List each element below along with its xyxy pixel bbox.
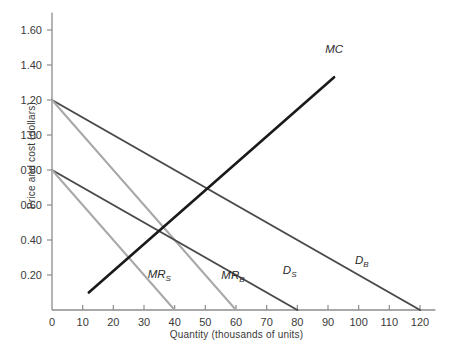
x-tick-label: 120: [411, 316, 429, 328]
x-tick-label: 60: [230, 316, 242, 328]
series-label-mr-s: MRS: [148, 268, 172, 283]
x-tick-label: 80: [291, 316, 303, 328]
y-axis-ticks: 0.200.400.600.801.001.201.401.60: [21, 24, 52, 281]
y-tick-label: 0.40: [21, 234, 42, 246]
series-label-d-s: DS: [283, 264, 297, 279]
x-tick-label: 50: [199, 316, 211, 328]
y-tick-label: 0.60: [21, 199, 42, 211]
y-tick-label: 0.20: [21, 269, 42, 281]
y-tick-label: 1.00: [21, 129, 42, 141]
x-tick-label: 40: [169, 316, 181, 328]
y-tick-label: 1.20: [21, 94, 42, 106]
x-axis-ticks: 0102030405060708090100110120: [49, 305, 429, 328]
x-tick-label: 10: [77, 316, 89, 328]
x-tick-label: 0: [49, 316, 55, 328]
series-line-mr-s: [52, 170, 175, 310]
x-tick-label: 30: [138, 316, 150, 328]
x-tick-label: 90: [322, 316, 334, 328]
series-line-d-s: [52, 170, 297, 310]
x-tick-label: 110: [381, 316, 399, 328]
y-tick-label: 0.80: [21, 164, 42, 176]
series-line-mr-b: [52, 100, 236, 310]
y-tick-label: 1.60: [21, 24, 42, 36]
y-tick-label: 1.40: [21, 59, 42, 71]
chart-plot-area: 0.200.400.600.801.001.201.401.60 0102030…: [0, 0, 473, 350]
x-tick-label: 100: [349, 316, 367, 328]
series-label-mc: MC: [325, 43, 344, 55]
x-tick-label: 70: [261, 316, 273, 328]
x-tick-label: 20: [107, 316, 119, 328]
chart-figure: Price and cost (dollars) Quantity (thous…: [0, 0, 473, 350]
series-label-d-b: DB: [355, 254, 369, 269]
series-label-mr-b: MRB: [221, 269, 245, 284]
